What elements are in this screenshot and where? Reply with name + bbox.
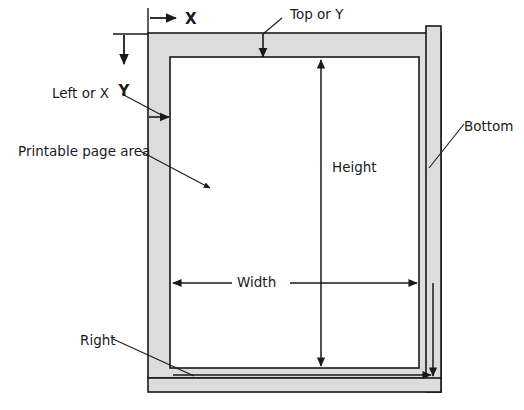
page-sheet bbox=[148, 26, 441, 392]
printable-area-rect bbox=[170, 57, 419, 368]
left-or-x-label: Left or X bbox=[52, 85, 109, 101]
page-area-diagram: X Y Left or X Top or Y Printable page ar… bbox=[0, 0, 524, 410]
axis-x-label: X bbox=[185, 10, 197, 28]
right-label: Right bbox=[80, 332, 116, 348]
bottom-label: Bottom bbox=[464, 118, 514, 134]
page-bottom-band bbox=[148, 378, 441, 392]
height-label: Height bbox=[332, 159, 377, 175]
printable-page-area-label: Printable page area bbox=[18, 143, 150, 159]
diagram-canvas: X Y Left or X Top or Y Printable page ar… bbox=[0, 0, 524, 410]
top-or-y-label: Top or Y bbox=[289, 6, 344, 22]
width-label: Width bbox=[237, 274, 276, 290]
top-or-y-leader bbox=[263, 18, 282, 34]
